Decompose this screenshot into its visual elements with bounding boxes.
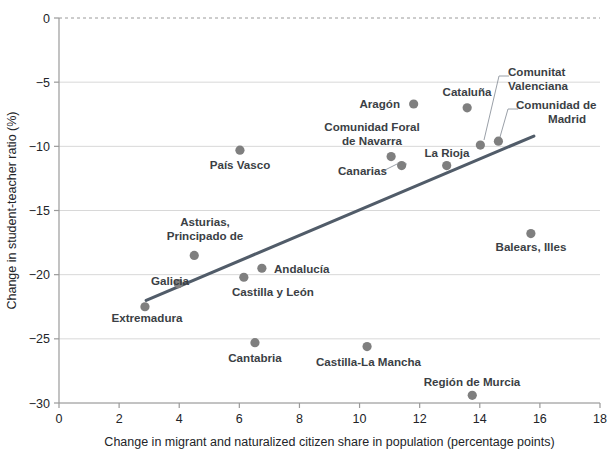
data-point[interactable] [239, 273, 248, 282]
data-point[interactable] [362, 342, 371, 351]
data-point-label: País Vasco [210, 158, 271, 171]
data-point[interactable] [250, 338, 259, 347]
data-point-label: Comunitat [508, 65, 565, 78]
data-point-label: Castilla-La Mancha [316, 355, 422, 368]
x-tick-label: 14 [473, 412, 487, 426]
data-point-label: de Navarra [342, 134, 402, 147]
y-tick-label: −25 [29, 332, 50, 346]
data-point-label: Valenciana [508, 79, 568, 92]
data-point[interactable] [526, 229, 535, 238]
y-tick-label: −5 [36, 76, 50, 90]
x-tick-label: 16 [533, 412, 547, 426]
y-tick-label: −10 [29, 140, 50, 154]
data-point[interactable] [409, 99, 418, 108]
y-tick-label: −20 [29, 268, 50, 282]
point-labels: ExtremaduraGaliciaAsturias,Principado de… [112, 65, 598, 388]
data-point-label: Comunidad de [516, 98, 597, 111]
plot-area: 0−5−10−15−20−25−30024681012141618 Extrem… [0, 0, 610, 454]
data-point-label: Comunidad Foral [324, 120, 419, 133]
x-axis-title: Change in migrant and naturalized citize… [104, 435, 554, 449]
x-tick-label: 6 [236, 412, 243, 426]
data-point-label: Canarias [338, 164, 387, 177]
data-point-label: Asturias, [180, 215, 230, 228]
data-point-label: Andalucía [274, 262, 330, 275]
y-tick-label: 0 [43, 12, 50, 26]
y-axis-title: Change in student-teacher ratio (%) [5, 111, 19, 309]
data-point-label: La Rioja [424, 146, 470, 159]
data-point[interactable] [468, 391, 477, 400]
data-point-label: Cataluña [443, 85, 493, 98]
data-point[interactable] [190, 251, 199, 260]
data-point[interactable] [463, 103, 472, 112]
data-point-label: Principado de [167, 229, 244, 242]
data-point-label: Cantabria [228, 351, 282, 364]
x-tick-label: 12 [413, 412, 427, 426]
y-tick-label: −30 [29, 397, 50, 411]
scatter-chart: 0−5−10−15−20−25−30024681012141618 Extrem… [0, 0, 610, 454]
data-point[interactable] [397, 161, 406, 170]
x-tick-label: 4 [176, 412, 183, 426]
y-tick-label: −15 [29, 204, 50, 218]
x-tick-label: 10 [353, 412, 367, 426]
data-point-label: Balears, Illes [496, 240, 567, 253]
data-point-label: Extremadura [112, 311, 183, 324]
data-point-label: Castilla y León [232, 285, 314, 298]
data-point-label: Madrid [548, 112, 586, 125]
x-tick-label: 0 [56, 412, 63, 426]
data-point[interactable] [387, 152, 396, 161]
data-point-label: Galicia [151, 274, 190, 287]
x-tick-label: 2 [116, 412, 123, 426]
label-leader-line [500, 109, 518, 137]
x-tick-label: 18 [593, 412, 607, 426]
x-tick-label: 8 [296, 412, 303, 426]
data-point-label: Región de Murcia [424, 375, 521, 388]
data-point-label: Aragón [359, 97, 400, 110]
data-point[interactable] [476, 140, 485, 149]
data-point[interactable] [494, 137, 503, 146]
data-point[interactable] [257, 264, 266, 273]
data-point[interactable] [235, 146, 244, 155]
data-point[interactable] [140, 302, 149, 311]
data-point[interactable] [442, 161, 451, 170]
